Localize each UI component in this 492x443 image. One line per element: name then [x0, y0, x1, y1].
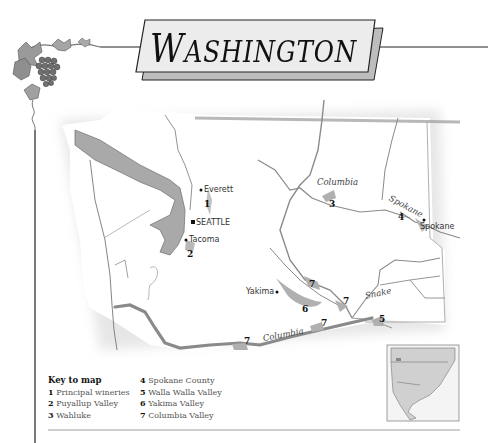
region-marker-2: 2: [187, 249, 193, 259]
region-marker-7c: 7: [321, 318, 327, 328]
page-title: WASHINGTON: [150, 25, 357, 71]
river-label-columbia-north: Columbia: [317, 177, 358, 187]
seattle-dot: [191, 220, 195, 224]
tacoma-dot: [185, 239, 188, 242]
region-marker-5: 5: [379, 314, 385, 324]
region-marker-7d: 7: [244, 336, 250, 346]
region-marker-3: 3: [329, 199, 335, 209]
title-initial: W: [150, 25, 185, 71]
state-land: [62, 108, 445, 352]
key-item-5: 5 Walla Walla Valley: [140, 387, 280, 399]
region-marker-6: 6: [302, 304, 308, 314]
everett-dot: [200, 189, 203, 192]
city-label-yakima: Yakima: [246, 287, 274, 296]
city-label-everett: Everett: [204, 185, 233, 194]
inset-locator-map: [387, 345, 459, 421]
grape-vine-icon: [13, 38, 100, 130]
city-label-spokane: Spokane: [420, 222, 454, 231]
city-label-tacoma: Tacoma: [189, 235, 219, 244]
key-item-6: 6 Yakima Valley: [140, 398, 280, 410]
city-label-seattle: SEATTLE: [196, 218, 230, 227]
region-marker-7a: 7: [309, 279, 315, 289]
region-marker-1: 1: [204, 199, 210, 209]
title-rest: ASHINGTON: [185, 34, 357, 69]
key-item-4: 4 Spokane County: [140, 375, 280, 387]
yakima-dot: [276, 291, 279, 294]
key-column-right: 4 Spokane County 5 Walla Walla Valley 6 …: [140, 375, 280, 421]
region-marker-4: 4: [398, 212, 404, 222]
key-item-7: 7 Columbia Valley: [140, 410, 280, 422]
region-marker-7b: 7: [343, 296, 349, 306]
